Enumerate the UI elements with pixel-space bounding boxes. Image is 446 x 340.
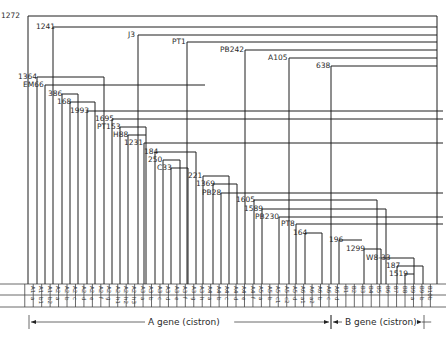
segment-sub-label: b — [148, 297, 154, 301]
segment-gene-label: B8 — [402, 286, 408, 294]
segment-sub-label: g — [190, 297, 197, 301]
segment-gene-label: A3 — [148, 286, 154, 294]
deletion-mutant: 1272 — [1, 11, 437, 284]
segment-gene-label: B9 — [419, 286, 425, 294]
segment-sub-label: c1 — [275, 297, 281, 304]
segment-gene-label: A4 — [207, 286, 213, 294]
segment-gene-label: A5 — [267, 286, 273, 294]
deletion-label: PB242 — [220, 45, 244, 54]
deletion-label: PB28 — [202, 188, 221, 197]
deletion-mutant: 164 — [293, 228, 322, 284]
segment-gene-label: A2 — [72, 286, 78, 293]
deletion-label: 1369 — [196, 179, 215, 188]
gene-label: A gene (cistron) — [148, 317, 220, 327]
segment-gene-label: B2 — [351, 286, 357, 293]
deletion-label: PT1 — [172, 37, 186, 46]
deletion-label: 638 — [316, 61, 331, 70]
deletion-mutant: 168 — [57, 97, 95, 284]
segment-gene-label: A3 — [165, 286, 171, 294]
deletion-mutant: 1519 — [389, 269, 414, 284]
segment-gene-label: A6 — [309, 286, 315, 294]
segment-gene-label: A5 — [284, 286, 290, 294]
segment-gene-label: A2 — [115, 286, 121, 293]
segment-gene-label: B9 — [410, 286, 416, 294]
segment-sub-label: c — [72, 297, 78, 300]
segment-sub-label: b — [267, 297, 273, 301]
segment-sub-label: b — [216, 297, 222, 301]
segment-sub-label: a — [258, 297, 264, 300]
segment-sub-label: b1 — [38, 297, 44, 304]
segment-sub-label: h3 — [131, 297, 137, 304]
segment-gene-label: A5 — [258, 286, 264, 294]
segment-sub-label: a — [207, 297, 213, 300]
segment-sub-label: b — [317, 297, 323, 301]
deletion-mutant: C33 — [157, 163, 188, 284]
segment-gene-label: A2 — [55, 286, 61, 293]
segment-gene-label: A6 — [317, 286, 323, 294]
segment-sub-label: a — [410, 297, 416, 300]
arrowhead-right-icon — [324, 320, 329, 324]
segment-gene-label: A3 — [140, 286, 146, 294]
segment-gene-label: A1 — [47, 286, 53, 293]
segment-gene-label: A3 — [174, 286, 180, 294]
deletion-label: 1241 — [36, 22, 55, 31]
arrowhead-left-icon — [31, 320, 36, 324]
segment-gene-label: B7 — [393, 286, 399, 294]
segment-gene-label: A4 — [233, 286, 239, 294]
segment-gene-label: B4 — [368, 286, 374, 294]
deletion-lines: 12721241J3PT1PB242A1056381364EM663861681… — [1, 11, 443, 284]
segment-sub-label: d — [292, 297, 298, 301]
gene-brackets: A gene (cistron)B gene (cistron) — [29, 315, 431, 329]
deletion-mutant: H88 — [113, 130, 146, 284]
deletion-mutant: J3 — [127, 30, 437, 284]
arrowhead-right-icon — [417, 320, 422, 324]
segment-sub-label: b2 — [47, 297, 53, 304]
segment-sub-label: a2 — [309, 297, 315, 304]
segment-sub-label: c2 — [284, 297, 290, 304]
segment-gene-label: A5 — [292, 286, 298, 294]
segment-gene-label: A2 — [64, 286, 70, 293]
deletion-label: 1605 — [236, 195, 255, 204]
deletion-label: 1993 — [70, 106, 89, 115]
segment-sub-label: b — [64, 297, 70, 301]
segment-sub-label: h1 — [115, 297, 121, 304]
deletion-mutant: 196 — [329, 235, 362, 284]
arrowhead-left-icon — [333, 320, 338, 324]
deletion-label: PB230 — [255, 212, 279, 221]
segment-sub-label: d — [81, 297, 87, 301]
segment-sub-label: d — [334, 297, 340, 301]
deletion-map-diagram: A1aA1b1A1b2A2aA2bA2cA2dA2eA2fA2gA2h1A2h2… — [0, 0, 446, 340]
segment-gene-label: A3 — [191, 286, 197, 294]
deletion-label: 168 — [57, 97, 72, 106]
segment-sub-label: c — [326, 297, 332, 300]
segment-sub-label: b — [419, 297, 425, 301]
segment-gene-label: A2 — [89, 286, 95, 293]
segment-gene-label: A4 — [250, 286, 256, 294]
deletion-label: PT8 — [281, 219, 295, 228]
segment-gene-label: A4 — [241, 286, 247, 294]
segment-sub-label: d — [165, 297, 171, 301]
deletion-label: 1299 — [346, 244, 365, 253]
deletion-label: 1231 — [124, 138, 143, 147]
segment-sub-label: h2 — [123, 297, 129, 304]
deletion-label: 1272 — [1, 11, 20, 20]
segment-gene-label: A4 — [216, 286, 222, 294]
segment-sub-label: c — [157, 297, 163, 300]
segment-sub-label: b — [427, 297, 433, 301]
segment-gene-label: A2 — [131, 286, 137, 293]
segment-gene-label: A4 — [224, 286, 230, 294]
segment-sub-label: a — [55, 297, 61, 300]
deletion-label: EM66 — [23, 80, 44, 89]
segment-sub-label: d — [233, 297, 239, 301]
deletion-label: C33 — [157, 163, 172, 172]
deletion-mutant: 250 — [148, 155, 180, 284]
gene-label: B gene (cistron) — [345, 317, 417, 327]
segment-gene-label: A2 — [106, 286, 112, 293]
segment-gene-label: A3 — [182, 286, 188, 294]
segment-gene-label: A1 — [38, 286, 44, 293]
segment-sub-label: h — [199, 297, 205, 301]
segment-gene-label: A6 — [334, 286, 340, 294]
gene-bracket: A gene (cistron) — [29, 315, 331, 329]
segment-gene-label: A6 — [326, 286, 332, 294]
segment-gene-label: B10 — [427, 286, 433, 297]
